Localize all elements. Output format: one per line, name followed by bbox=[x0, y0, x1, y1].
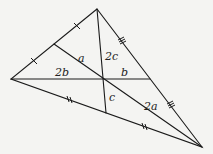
triangle-outline bbox=[11, 9, 202, 147]
median-bottom-right-to-left-side bbox=[54, 44, 202, 147]
label-b: b bbox=[121, 66, 128, 79]
label-2c: 2c bbox=[104, 50, 118, 63]
label-a: a bbox=[78, 52, 85, 65]
label-c: c bbox=[109, 91, 115, 104]
label-2b: 2b bbox=[54, 66, 69, 79]
triangle-median-diagram: a 2a b 2b c 2c bbox=[0, 0, 213, 154]
label-2a: 2a bbox=[143, 100, 158, 113]
